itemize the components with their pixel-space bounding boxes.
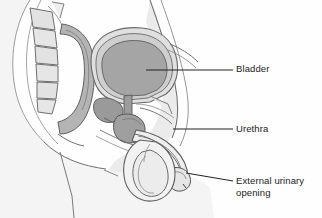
vertebra-2 (33, 28, 57, 48)
label-external-urinary-opening: External urinary opening (236, 175, 322, 198)
vertebra-5 (37, 82, 58, 99)
label-urethra: Urethra (236, 123, 268, 135)
sacrum (37, 99, 56, 114)
label-bladder: Bladder (236, 63, 269, 75)
vertebra-4 (36, 64, 58, 82)
bladder-lumen (102, 41, 167, 97)
anatomy-figure: Bladder Urethra External urinary opening (0, 0, 322, 218)
vertebra-3 (35, 46, 58, 65)
